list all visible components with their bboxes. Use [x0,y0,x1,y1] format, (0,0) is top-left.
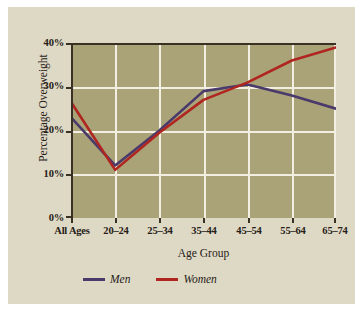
y-axis-tick [66,87,71,89]
legend-item-men: Men [83,273,130,285]
y-tick-label: 10% [24,168,64,179]
x-axis-tick [159,218,161,223]
y-axis-title: Percentage Overweight [37,28,49,188]
series-lines [71,43,336,218]
y-tick-label: 20% [24,124,64,135]
series-line-men [71,85,336,166]
y-tick-label: 40% [24,37,64,48]
y-tick-label: 30% [24,80,64,91]
x-axis-tick [71,218,73,223]
y-axis-tick [66,43,71,45]
plot-top-rule [71,43,336,45]
x-axis-tick [292,218,294,223]
y-tick-label: 0% [24,212,64,223]
x-axis-tick [203,218,205,223]
x-axis-tick [248,218,250,223]
chart-figure: Percentage Overweight 40% 30% 20% 10% 0% [8,7,355,304]
x-axis-tick [334,218,336,223]
legend-swatch-women [156,278,178,281]
legend-swatch-men [83,278,105,281]
x-axis-tick [115,218,117,223]
plot-area [71,43,336,218]
y-axis-line [71,43,73,218]
legend-label-men: Men [110,273,130,285]
legend-item-women: Women [156,273,216,285]
series-line-women [71,47,336,170]
legend-label-women: Women [183,273,216,285]
chart-legend: Men Women [71,273,336,285]
y-axis-tick [66,174,71,176]
x-axis-title: Age Group [71,247,336,259]
x-tick-label: 65–74 [306,225,363,236]
y-axis-tick [66,131,71,133]
